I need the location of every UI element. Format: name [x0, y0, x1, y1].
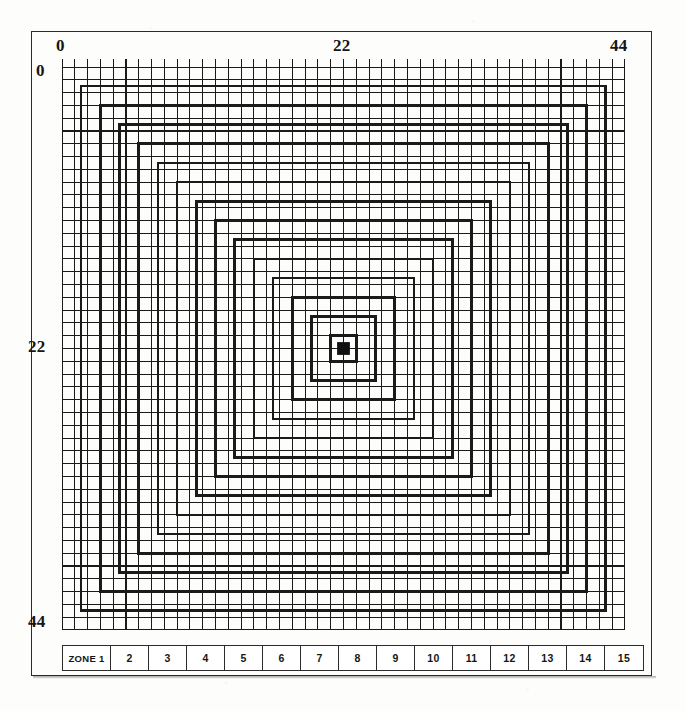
zone-legend-bar: ZONE 123456789101112131415 — [62, 645, 644, 671]
zone-legend-cell: 4 — [187, 646, 225, 670]
zone-grid-plot — [62, 67, 625, 630]
zone-legend-cell: 3 — [149, 646, 187, 670]
figure-frame-shadow — [33, 676, 656, 679]
axis-label-left-22: 22 — [28, 337, 45, 357]
center-cell-marker — [337, 342, 350, 355]
zone-legend-cell: 14 — [567, 646, 605, 670]
axis-label-left-0: 0 — [36, 61, 45, 81]
zone-legend-cell: 12 — [491, 646, 529, 670]
axis-label-top-44: 44 — [610, 36, 627, 56]
zone-legend-cell: 2 — [111, 646, 149, 670]
zone-legend-cell: 10 — [415, 646, 453, 670]
zone-legend-cell: 8 — [339, 646, 377, 670]
zone-legend-cell: ZONE 1 — [63, 646, 111, 670]
axis-label-top-22: 22 — [333, 36, 350, 56]
zone-legend-cell: 6 — [263, 646, 301, 670]
zone-legend-cell: 11 — [453, 646, 491, 670]
figure-page: 0 22 44 0 22 44 ZONE 1234567891011121314… — [0, 0, 685, 711]
axis-label-left-44: 44 — [28, 612, 45, 632]
zone-legend-cell: 9 — [377, 646, 415, 670]
zone-legend-cell: 7 — [301, 646, 339, 670]
zone-legend-cell: 13 — [529, 646, 567, 670]
zone-legend-cell: 5 — [225, 646, 263, 670]
zone-legend-cell: 15 — [605, 646, 643, 670]
axis-label-top-0: 0 — [56, 36, 65, 56]
zone-boundary-squares — [62, 67, 625, 630]
